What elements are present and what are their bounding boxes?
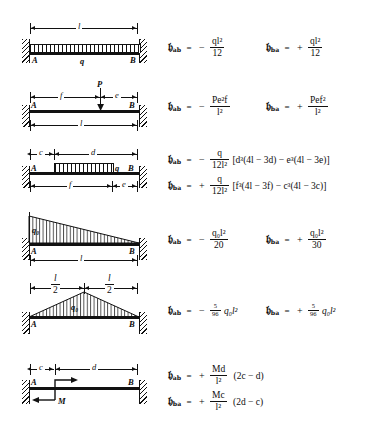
dim-label-f: f [67,179,73,189]
fixed-support-left [22,166,30,188]
load-label-q: q [80,56,84,66]
formula-mab: 𝔥ab = − q₀l² 20 [168,230,229,252]
fraction-denominator: l² [210,401,227,413]
symmetric-triangular-load-shape [29,292,139,318]
sign-mba: + [297,42,303,53]
load-left-edge [29,212,30,243]
fraction-denominator: l² [210,375,227,387]
beam-diagram-triangular-decreasing: q₀ A B l [0,208,168,268]
moment-symbol-ba: 𝔥ba [168,395,181,407]
moment-symbol-ba: 𝔥ba [266,100,279,112]
dim-arrow-f-left [31,184,35,188]
span-label: l [76,21,82,31]
fraction-denominator: 2 [105,284,114,296]
equals-sign: = [187,155,192,165]
sign-mab: + [199,370,205,381]
dim-arrow-c-right [49,367,53,371]
fraction-numerator: ql² [308,37,322,47]
dim-tick-left [30,283,31,294]
moment-symbol-ba: 𝔥ba [168,179,181,191]
node-label-a: A [31,100,37,110]
formula-mab: 𝔥ab = − q 12l² [d³(4l − 3d) − e³(4l − 3e… [168,150,330,172]
dim-arrow-f-right [95,95,99,99]
equals-sign: = [285,102,290,112]
fraction-mab: Pe²f l² [210,96,230,118]
fraction-numerator: 5 [308,303,319,310]
formula-mba: 𝔥ba = + ql² 12 [266,38,323,60]
table-row: M c d A B 𝔥ab = + Md l² [0,358,369,418]
coefficient-fraction-mba: 5 96 [308,303,319,318]
formula-mab: 𝔥ab = − 5 96 q₀l² [168,304,237,319]
formula-mba: 𝔥ba = + Mc l² (2d − c) [168,392,263,414]
span-arrow-right [132,258,136,262]
fraction-mab: q₀l² 20 [210,229,228,251]
moment-symbol-ab: 𝔥ab [168,100,181,112]
formula-mba: 𝔥ba = + q 12l² [f³(4l − 3f) − c³(4l − 3c… [168,176,326,198]
table-row: q c d A B f e [0,142,369,202]
sign-mba: + [199,396,205,407]
span-tick-right [137,120,138,131]
equals-sign: = [187,371,192,381]
fixed-support-right [139,312,147,334]
table-row: l A B q 𝔥ab = − ql² 12 𝔥ba = + ql² [0,18,369,74]
beam-axis [29,243,139,246]
fraction-numerator: 5 [210,303,221,310]
dim-label-e: e [120,179,128,189]
dim-arrow-right [132,26,136,30]
dim-tick-d-right [137,149,138,160]
dim-label-f: f [58,90,64,100]
moment-symbol-ba: 𝔥ba [266,304,279,316]
sign-mba: + [297,305,303,316]
formula-mab: 𝔥ab = + Md l² (2c − d) [168,366,264,388]
sign-mba: + [297,101,303,112]
node-label-a: A [31,163,37,173]
equals-sign: = [187,43,192,53]
dim-arrow-e-left [113,184,117,188]
dim-tick-c-left [30,364,31,375]
node-label-b: B [128,163,134,173]
dim-arrow-e-right [132,95,136,99]
node-label-a: A [31,246,37,256]
dim-label-right-half: l 2 [105,274,114,296]
dim-arrow-left-half-l [31,286,35,290]
fraction-numerator: Md [210,365,227,375]
fraction-denominator: l² [308,106,328,118]
fraction-numerator: q₀l² [308,229,326,239]
fraction-mba: q₀l² 30 [308,229,326,251]
beam-diagram-partial-uniform: q c d A B f e [0,142,168,202]
dim-arrow-f-left [31,95,35,99]
fraction-denominator: 20 [210,239,228,251]
equals-sign: = [285,235,290,245]
dim-arrow-right-half-l [85,286,89,290]
trailing-term-mab: q₀l² [224,306,238,316]
trailing-term-mba: q₀l² [322,306,336,316]
equals-sign: = [285,43,290,53]
fraction-numerator: l [51,274,60,284]
equals-sign: = [187,102,192,112]
load-label-p: P [97,79,102,89]
table-row: q₀ A B l 𝔥ab = − q₀l² 20 𝔥ba = [0,208,369,268]
dim-label-c: c [37,147,45,157]
sign-mba: + [297,234,303,245]
fraction-mba: ql² 12 [308,37,322,59]
moment-symbol-ab: 𝔥ab [168,233,181,245]
moment-symbol-ab: 𝔥ab [168,153,181,165]
bracket-expression-mba: [f³(4l − 3f) − c³(4l − 3c)] [232,181,326,191]
beam-axis [29,316,139,319]
span-arrow-left [31,258,35,262]
point-load-arrowhead [96,104,106,112]
sign-mab: − [199,42,205,53]
fraction-numerator: l [105,274,114,284]
sign-mab: − [199,101,205,112]
dim-label-e: e [113,90,121,100]
dim-label-d: d [89,147,97,157]
moment-symbol-ba: 𝔥ba [266,233,279,245]
span-arrow-right [132,123,136,127]
dim-tick-e-right [137,181,138,192]
formula-mba: 𝔥ba = + Pef² l² [266,97,329,119]
dim-arrow-f-right [107,184,111,188]
fraction-numerator: Pe²f [210,96,230,106]
dim-arrow-d-left [56,367,60,371]
fraction-denominator: 12l² [210,159,229,171]
formula-group-partial-uniform: 𝔥ab = − q 12l² [d³(4l − 3d) − e³(4l − 3e… [168,142,369,202]
